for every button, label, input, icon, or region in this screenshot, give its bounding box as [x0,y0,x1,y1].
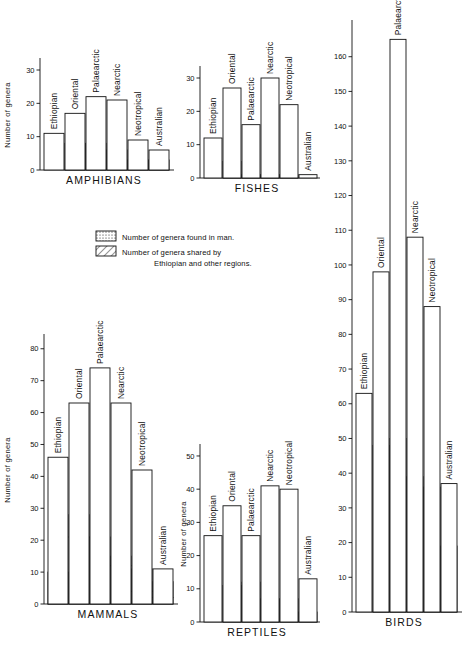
legend-label-hatch-line2: Ethiopian and other regions. [154,259,252,268]
bar-palaearctic [242,536,260,622]
bar-label-oriental: Oriental [227,53,237,84]
bar-oriental [223,88,241,178]
y-axis-title: Number of genera [3,82,12,148]
bar-label-australian: Australian [154,107,164,146]
bar-nearctic [261,78,279,178]
y-tick-label: 20 [30,536,38,545]
y-tick-label: 40 [186,485,194,494]
bar-ethiopian [204,536,222,622]
bar-nearctic [407,237,423,612]
bar-ethiopian [48,457,68,604]
bar-nearctic [107,100,127,170]
chart-title: MAMMALS [78,608,139,620]
y-tick-label: 30 [186,74,194,83]
chart-panel-birds: 0102030405060708090100110120130140150160… [312,10,464,650]
chart-panel-fishes: 0102030EthiopianOrientalPalaearcticNearc… [176,52,316,204]
y-tick-label: 30 [30,504,38,513]
y-tick-label: 120 [334,191,347,200]
y-tick-label: 40 [30,472,38,481]
bar-label-neotropical: Neotropical [137,421,147,466]
bar-neotropical [280,105,298,178]
y-tick-label: 130 [334,157,347,166]
y-tick-label: 80 [30,344,38,353]
bar-neotropical [132,470,152,604]
chart-panel-reptiles: 01020304050Number of generaEthiopianOrie… [176,432,316,650]
y-tick-label: 0 [34,600,38,609]
bar-neotropical [280,489,298,622]
chart-panel-amphibians: 0102030Number of generaEthiopianOriental… [0,44,170,204]
y-tick-label: 90 [338,295,346,304]
bar-label-palaearctic: Palaearctic [393,0,403,35]
legend: Number of genera found in man. Number of… [96,228,316,274]
y-tick-label: 50 [338,434,346,443]
y-tick-label: 110 [335,226,347,235]
bar-label-palaearctic: Palaearctic [246,488,256,532]
legend-label-hatch: Number of genera shared by [122,248,221,257]
y-tick-label: 0 [342,608,346,617]
y-tick-label: 0 [190,618,194,627]
bar-label-ethiopian: Ethiopian [359,352,369,389]
bar-oriental [65,113,85,170]
bar-label-ethiopian: Ethiopian [49,92,59,129]
bar-oriental [373,272,389,612]
bar-label-palaearctic: Palaearctic [91,49,101,93]
y-tick-label: 50 [30,440,38,449]
y-tick-label: 40 [338,469,346,478]
y-tick-label: 20 [26,99,34,108]
bar-neotropical [128,140,148,170]
bar-nearctic [111,403,131,604]
bar-label-australian: Australian [158,526,168,565]
bar-label-australian: Australian [444,440,454,479]
bar-palaearctic [90,368,110,604]
y-tick-label: 140 [334,122,347,131]
bar-australian [153,569,173,604]
y-tick-label: 70 [30,376,38,385]
chart-title: AMPHIBIANS [66,174,142,186]
y-tick-label: 0 [190,174,194,183]
chart-panel-mammals: 01020304050607080Number of generaEthiopi… [0,322,180,642]
y-tick-label: 60 [30,408,38,417]
bar-oriental [223,506,241,622]
legend-swatch-dots [96,231,116,241]
bar-label-ethiopian: Ethiopian [53,416,63,453]
bar-label-nearctic: Nearctic [265,42,275,74]
y-tick-label: 70 [338,365,346,374]
bar-label-ethiopian: Ethiopian [208,495,218,532]
y-axis-title: Number of genera [3,437,12,503]
bar-label-nearctic: Nearctic [116,367,126,399]
chart-title: REPTILES [227,626,287,638]
y-tick-label: 60 [338,399,346,408]
chart-title: FISHES [235,182,280,194]
y-tick-label: 20 [338,538,346,547]
bar-label-nearctic: Nearctic [265,450,275,482]
y-tick-label: 10 [338,573,346,582]
bar-label-neotropical: Neotropical [284,441,294,486]
y-tick-label: 10 [30,568,38,577]
bar-label-palaearctic: Palaearctic [246,77,256,121]
bar-ethiopian [356,393,372,612]
y-axis-title: Number of genera [179,501,188,567]
legend-swatch-hatch [96,246,116,256]
bar-label-nearctic: Nearctic [112,64,122,96]
y-tick-label: 20 [186,107,194,116]
bar-ethiopian [204,138,222,178]
bar-label-oriental: Oriental [376,237,386,268]
bar-oriental [69,403,89,604]
figure-root: 0102030Number of generaEthiopianOriental… [0,0,464,661]
bar-palaearctic [390,39,406,612]
bar-palaearctic [242,125,260,178]
y-tick-label: 0 [30,166,34,175]
bar-palaearctic [86,97,106,170]
y-tick-label: 30 [26,66,34,75]
y-tick-label: 150 [334,87,347,96]
bar-label-nearctic: Nearctic [410,201,420,233]
bar-label-ethiopian: Ethiopian [208,97,218,134]
chart-title: BIRDS [385,616,423,628]
bar-ethiopian [44,133,64,170]
bar-label-neotropical: Neotropical [427,258,437,303]
bar-label-neotropical: Neotropical [284,56,294,101]
bar-neotropical [424,307,440,612]
y-tick-label: 30 [338,504,346,513]
y-tick-label: 10 [186,140,194,149]
bar-australian [149,150,169,170]
